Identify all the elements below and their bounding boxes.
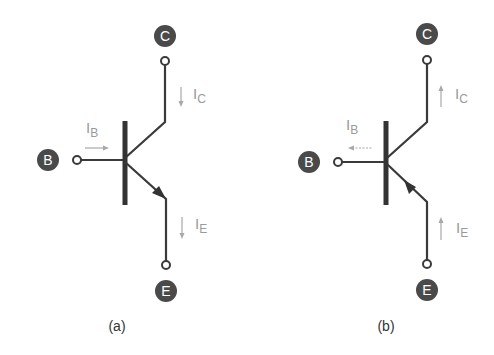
collector-badge-a: C [154,25,176,47]
base-current-b: IB [346,116,373,151]
emitter-badge-a: E [155,280,177,302]
collector-terminal-a [161,57,169,65]
emitter-badge-b: E [416,279,438,301]
caption-a: (a) [108,318,125,334]
svg-text:IE: IE [195,215,207,236]
collector-lead-b [387,64,427,158]
base-terminal-a [73,156,81,164]
emitter-current-b: IE [439,217,469,240]
base-badge-a: B [37,149,59,171]
arrow-down-icon [180,233,185,239]
svg-text:E: E [422,282,431,298]
svg-text:IC: IC [455,85,468,106]
collector-lead-a [125,65,165,158]
svg-text:IB: IB [346,116,358,137]
base-badge-b: B [298,151,320,173]
emitter-lead-a [125,162,166,261]
arrow-down-icon [179,101,184,107]
svg-text:IC: IC [193,85,206,106]
collector-terminal-b [423,56,431,64]
svg-text:IB: IB [86,119,98,140]
svg-text:B: B [304,154,313,170]
arrow-right-icon [103,146,109,151]
emitter-lead-b [387,164,427,261]
collector-current-b: IC [439,85,469,107]
npn-transistor-diagram: C B E IB IC [37,25,207,334]
svg-text:C: C [160,28,170,44]
collector-current-a: IC [179,85,207,107]
pnp-transistor-diagram: C B E IB IC [298,23,468,334]
caption-b: (b) [377,318,394,334]
emitter-terminal-a [162,261,170,269]
arrow-left-icon [348,146,354,151]
svg-text:C: C [422,26,432,42]
emitter-current-a: IE [180,215,208,239]
svg-text:IE: IE [456,219,468,240]
svg-text:E: E [161,283,170,299]
collector-badge-b: C [416,23,438,45]
emitter-arrow-icon-b [404,180,416,194]
transistor-diagrams: C B E IB IC [0,0,494,355]
svg-text:B: B [43,152,52,168]
base-terminal-b [334,158,342,166]
base-current-a: IB [85,119,109,151]
arrow-up-icon [439,217,444,223]
arrow-up-icon [439,85,444,91]
emitter-terminal-b [423,260,431,268]
